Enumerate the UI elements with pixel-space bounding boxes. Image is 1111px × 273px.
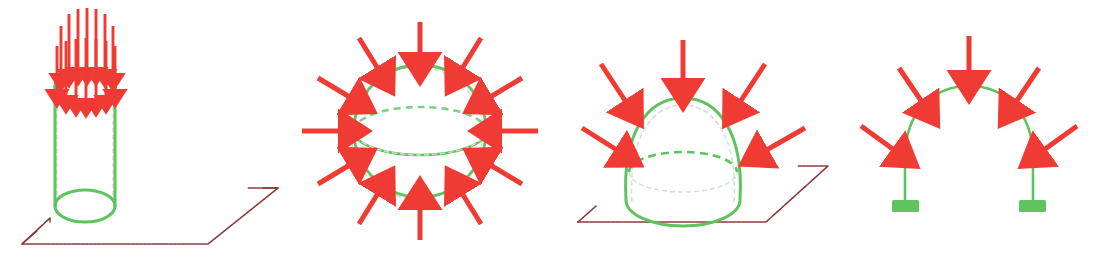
- cylinder-hidden-edges: [57, 86, 113, 206]
- dome-body: [626, 98, 741, 226]
- ground-plane: [578, 166, 828, 222]
- sphere-ghost-ellipse: [357, 136, 483, 155]
- sphere-svg: [288, 0, 560, 273]
- cylinder-svg: [0, 0, 290, 273]
- figure-dome: [560, 0, 838, 273]
- dome-base-rim-dashed: [629, 152, 737, 172]
- ground-plane-outline: [578, 166, 828, 222]
- figure-sphere: [288, 0, 560, 273]
- sphere-equator-back: [354, 107, 486, 131]
- arch-svg: [838, 0, 1111, 273]
- footing-block-right: [1019, 200, 1046, 212]
- dome-outline: [626, 98, 741, 226]
- footing-block-left: [892, 200, 919, 212]
- figure-arch: [838, 0, 1111, 273]
- load-arrows-radial: [302, 22, 538, 240]
- cylinder-bottom-ellipse: [55, 190, 115, 222]
- sphere-body: [351, 65, 486, 199]
- figure-cylinder: [0, 0, 290, 273]
- dome-svg: [560, 0, 838, 273]
- sphere-outline: [354, 65, 486, 197]
- load-arrows-radial: [861, 36, 1077, 152]
- ground-plane-corner-left: [22, 231, 37, 244]
- diagram-canvas: [0, 0, 1111, 273]
- ground-plane-corner-left: [578, 206, 596, 222]
- arch-footings: [892, 200, 1046, 212]
- load-arrows-front-row: [57, 38, 115, 102]
- sphere-equator-front: [354, 131, 486, 155]
- load-arrows-radial: [582, 40, 805, 152]
- dome-base-ghost: [629, 172, 737, 192]
